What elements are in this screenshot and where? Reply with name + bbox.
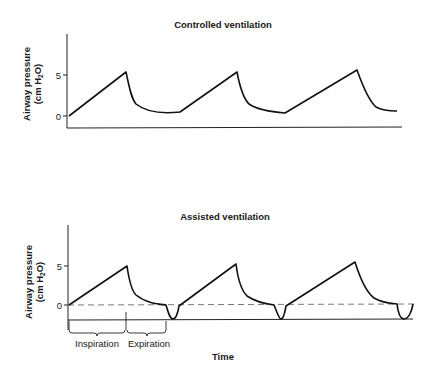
inspiration-label: Inspiration — [75, 338, 119, 349]
pressure-waveform — [69, 70, 397, 116]
assisted-ventilation-panel: Assisted ventilation Airway pressure (cm… — [23, 211, 418, 362]
y-label-line2: (cm H2O) — [34, 262, 46, 303]
y-label-line2: (cm H2O) — [32, 64, 44, 105]
y-axis-label: Airway pressure (cm H2O) — [21, 47, 44, 121]
y-axis-label: Airway pressure (cm H2O) — [23, 245, 46, 319]
x-axis-label: Time — [212, 351, 234, 362]
tick-label-5: 5 — [56, 70, 61, 81]
panel-title: Assisted ventilation — [180, 211, 270, 222]
y-label-line1: Airway pressure — [21, 47, 32, 121]
expiration-brace — [127, 321, 166, 336]
controlled-ventilation-panel: Controlled ventilation Airway pressure (… — [21, 19, 402, 128]
inspiration-brace — [69, 321, 125, 336]
tick-label-0: 0 — [56, 111, 61, 122]
tick-label-5: 5 — [57, 261, 62, 272]
y-label-line1: Airway pressure — [23, 245, 34, 319]
expiration-label: Expiration — [128, 338, 170, 349]
zero-baseline — [68, 304, 418, 305]
tick-label-0: 0 — [57, 300, 62, 311]
x-axis — [67, 127, 402, 128]
ventilation-diagram: Controlled ventilation Airway pressure (… — [0, 0, 436, 374]
pressure-waveform — [69, 262, 413, 319]
panel-title: Controlled ventilation — [174, 19, 272, 30]
x-axis — [68, 319, 413, 320]
